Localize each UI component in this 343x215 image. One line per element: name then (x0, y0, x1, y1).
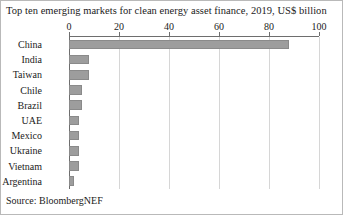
bar-row: Vietnam (69, 159, 319, 174)
chart-title: Top ten emerging markets for clean energ… (6, 4, 342, 17)
bar-brazil (69, 100, 82, 110)
bar-row: Argentina (69, 174, 319, 189)
bar-mexico (69, 131, 79, 141)
bar-row: India (69, 52, 319, 67)
gridline-100 (319, 37, 320, 189)
bar-chile (69, 85, 82, 95)
chart-figure: Top ten emerging markets for clean energ… (0, 0, 343, 215)
bar-india (69, 55, 89, 65)
category-label-india: India (21, 52, 42, 67)
x-tick-mark-0 (69, 32, 70, 36)
x-tick-mark-40 (169, 32, 170, 36)
category-label-china: China (18, 37, 42, 52)
source-note: Source: BloombergNEF (6, 194, 103, 207)
bar-uae (69, 116, 79, 126)
category-label-taiwan: Taiwan (13, 67, 42, 82)
bar-row: Ukraine (69, 143, 319, 158)
bar-row: Mexico (69, 128, 319, 143)
category-label-uae: UAE (21, 113, 42, 128)
category-label-vietnam: Vietnam (8, 159, 42, 174)
bar-china (69, 40, 289, 50)
bar-row: Chile (69, 83, 319, 98)
plot-area: ChinaIndiaTaiwanChileBrazilUAEMexicoUkra… (69, 37, 319, 189)
bar-vietnam (69, 161, 79, 171)
bar-ukraine (69, 146, 79, 156)
category-label-ukraine: Ukraine (10, 143, 42, 158)
x-tick-mark-20 (119, 32, 120, 36)
bar-argentina (69, 176, 74, 186)
bar-taiwan (69, 70, 89, 80)
x-tick-mark-100 (319, 32, 320, 36)
category-label-chile: Chile (20, 83, 42, 98)
category-label-brazil: Brazil (18, 98, 42, 113)
bar-row: China (69, 37, 319, 52)
category-label-mexico: Mexico (11, 128, 42, 143)
bar-row: Taiwan (69, 67, 319, 82)
x-tick-mark-80 (269, 32, 270, 36)
bar-row: UAE (69, 113, 319, 128)
bar-row: Brazil (69, 98, 319, 113)
x-tick-mark-60 (219, 32, 220, 36)
category-label-argentina: Argentina (2, 174, 42, 189)
